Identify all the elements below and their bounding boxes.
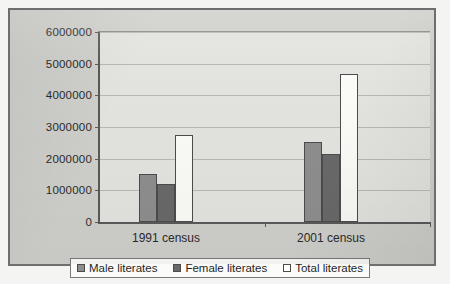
x-axis-category-label: 2001 census xyxy=(297,231,365,245)
y-axis-tick-mark xyxy=(95,190,100,191)
gridline xyxy=(100,95,430,96)
y-axis-tick-mark xyxy=(95,222,100,223)
x-axis-tick-mark xyxy=(430,222,431,227)
gridline xyxy=(100,64,430,65)
legend-item-total[interactable]: Total literates xyxy=(283,262,363,274)
bar-female-1 xyxy=(157,184,175,222)
legend-item-label: Female literates xyxy=(185,262,267,274)
gridline xyxy=(100,159,430,160)
plot-area: 0100000020000003000000400000050000006000… xyxy=(98,32,430,224)
legend-item-female[interactable]: Female literates xyxy=(173,262,267,274)
legend-swatch-icon xyxy=(77,264,85,272)
x-axis-category-label: 1991 census xyxy=(132,231,200,245)
y-axis-tick-mark xyxy=(95,64,100,65)
y-axis-tick-mark xyxy=(95,95,100,96)
y-axis-tick-label: 2000000 xyxy=(46,153,92,165)
y-axis-tick-mark xyxy=(95,127,100,128)
y-axis-tick-mark xyxy=(95,159,100,160)
gridline xyxy=(100,32,430,33)
bar-total-2 xyxy=(340,74,358,222)
y-axis-tick-mark xyxy=(95,32,100,33)
y-axis-tick-label: 5000000 xyxy=(46,58,92,70)
y-axis-tick-label: 6000000 xyxy=(46,26,92,38)
bar-male-1 xyxy=(139,174,157,222)
y-axis-tick-label: 4000000 xyxy=(46,89,92,101)
x-axis-tick-mark xyxy=(265,222,266,227)
bar-female-2 xyxy=(322,154,340,222)
legend-item-male[interactable]: Male literates xyxy=(77,262,157,274)
y-axis-tick-label: 1000000 xyxy=(46,184,92,196)
bar-male-2 xyxy=(304,142,322,222)
chart-legend: Male literatesFemale literatesTotal lite… xyxy=(70,258,370,278)
y-axis-tick-label: 3000000 xyxy=(46,121,92,133)
legend-item-label: Total literates xyxy=(295,262,363,274)
legend-swatch-icon xyxy=(173,264,181,272)
legend-swatch-icon xyxy=(283,264,291,272)
legend-item-label: Male literates xyxy=(89,262,157,274)
figure-canvas: 0100000020000003000000400000050000006000… xyxy=(0,0,450,284)
gridline xyxy=(100,127,430,128)
bar-total-1 xyxy=(175,135,193,222)
chart-frame: 0100000020000003000000400000050000006000… xyxy=(8,8,436,266)
y-axis-tick-label: 0 xyxy=(85,216,92,228)
